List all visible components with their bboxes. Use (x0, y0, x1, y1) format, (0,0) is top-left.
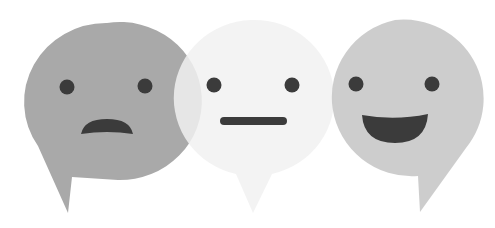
neutral-bubble-shape (174, 20, 335, 213)
sad-left-eye-icon (60, 80, 75, 95)
neutral-right-eye-icon (285, 78, 300, 93)
happy-bubble (332, 20, 484, 212)
happy-right-eye-icon (425, 77, 440, 92)
sad-right-eye-icon (138, 79, 153, 94)
neutral-left-eye-icon (207, 78, 222, 93)
neutral-bubble (174, 20, 335, 213)
feedback-emoji-illustration (0, 0, 495, 228)
happy-bubble-shape (332, 20, 484, 212)
neutral-mouth-icon (220, 117, 287, 125)
sad-bubble-shape (24, 22, 202, 213)
sad-bubble (24, 22, 202, 213)
happy-left-eye-icon (349, 77, 364, 92)
